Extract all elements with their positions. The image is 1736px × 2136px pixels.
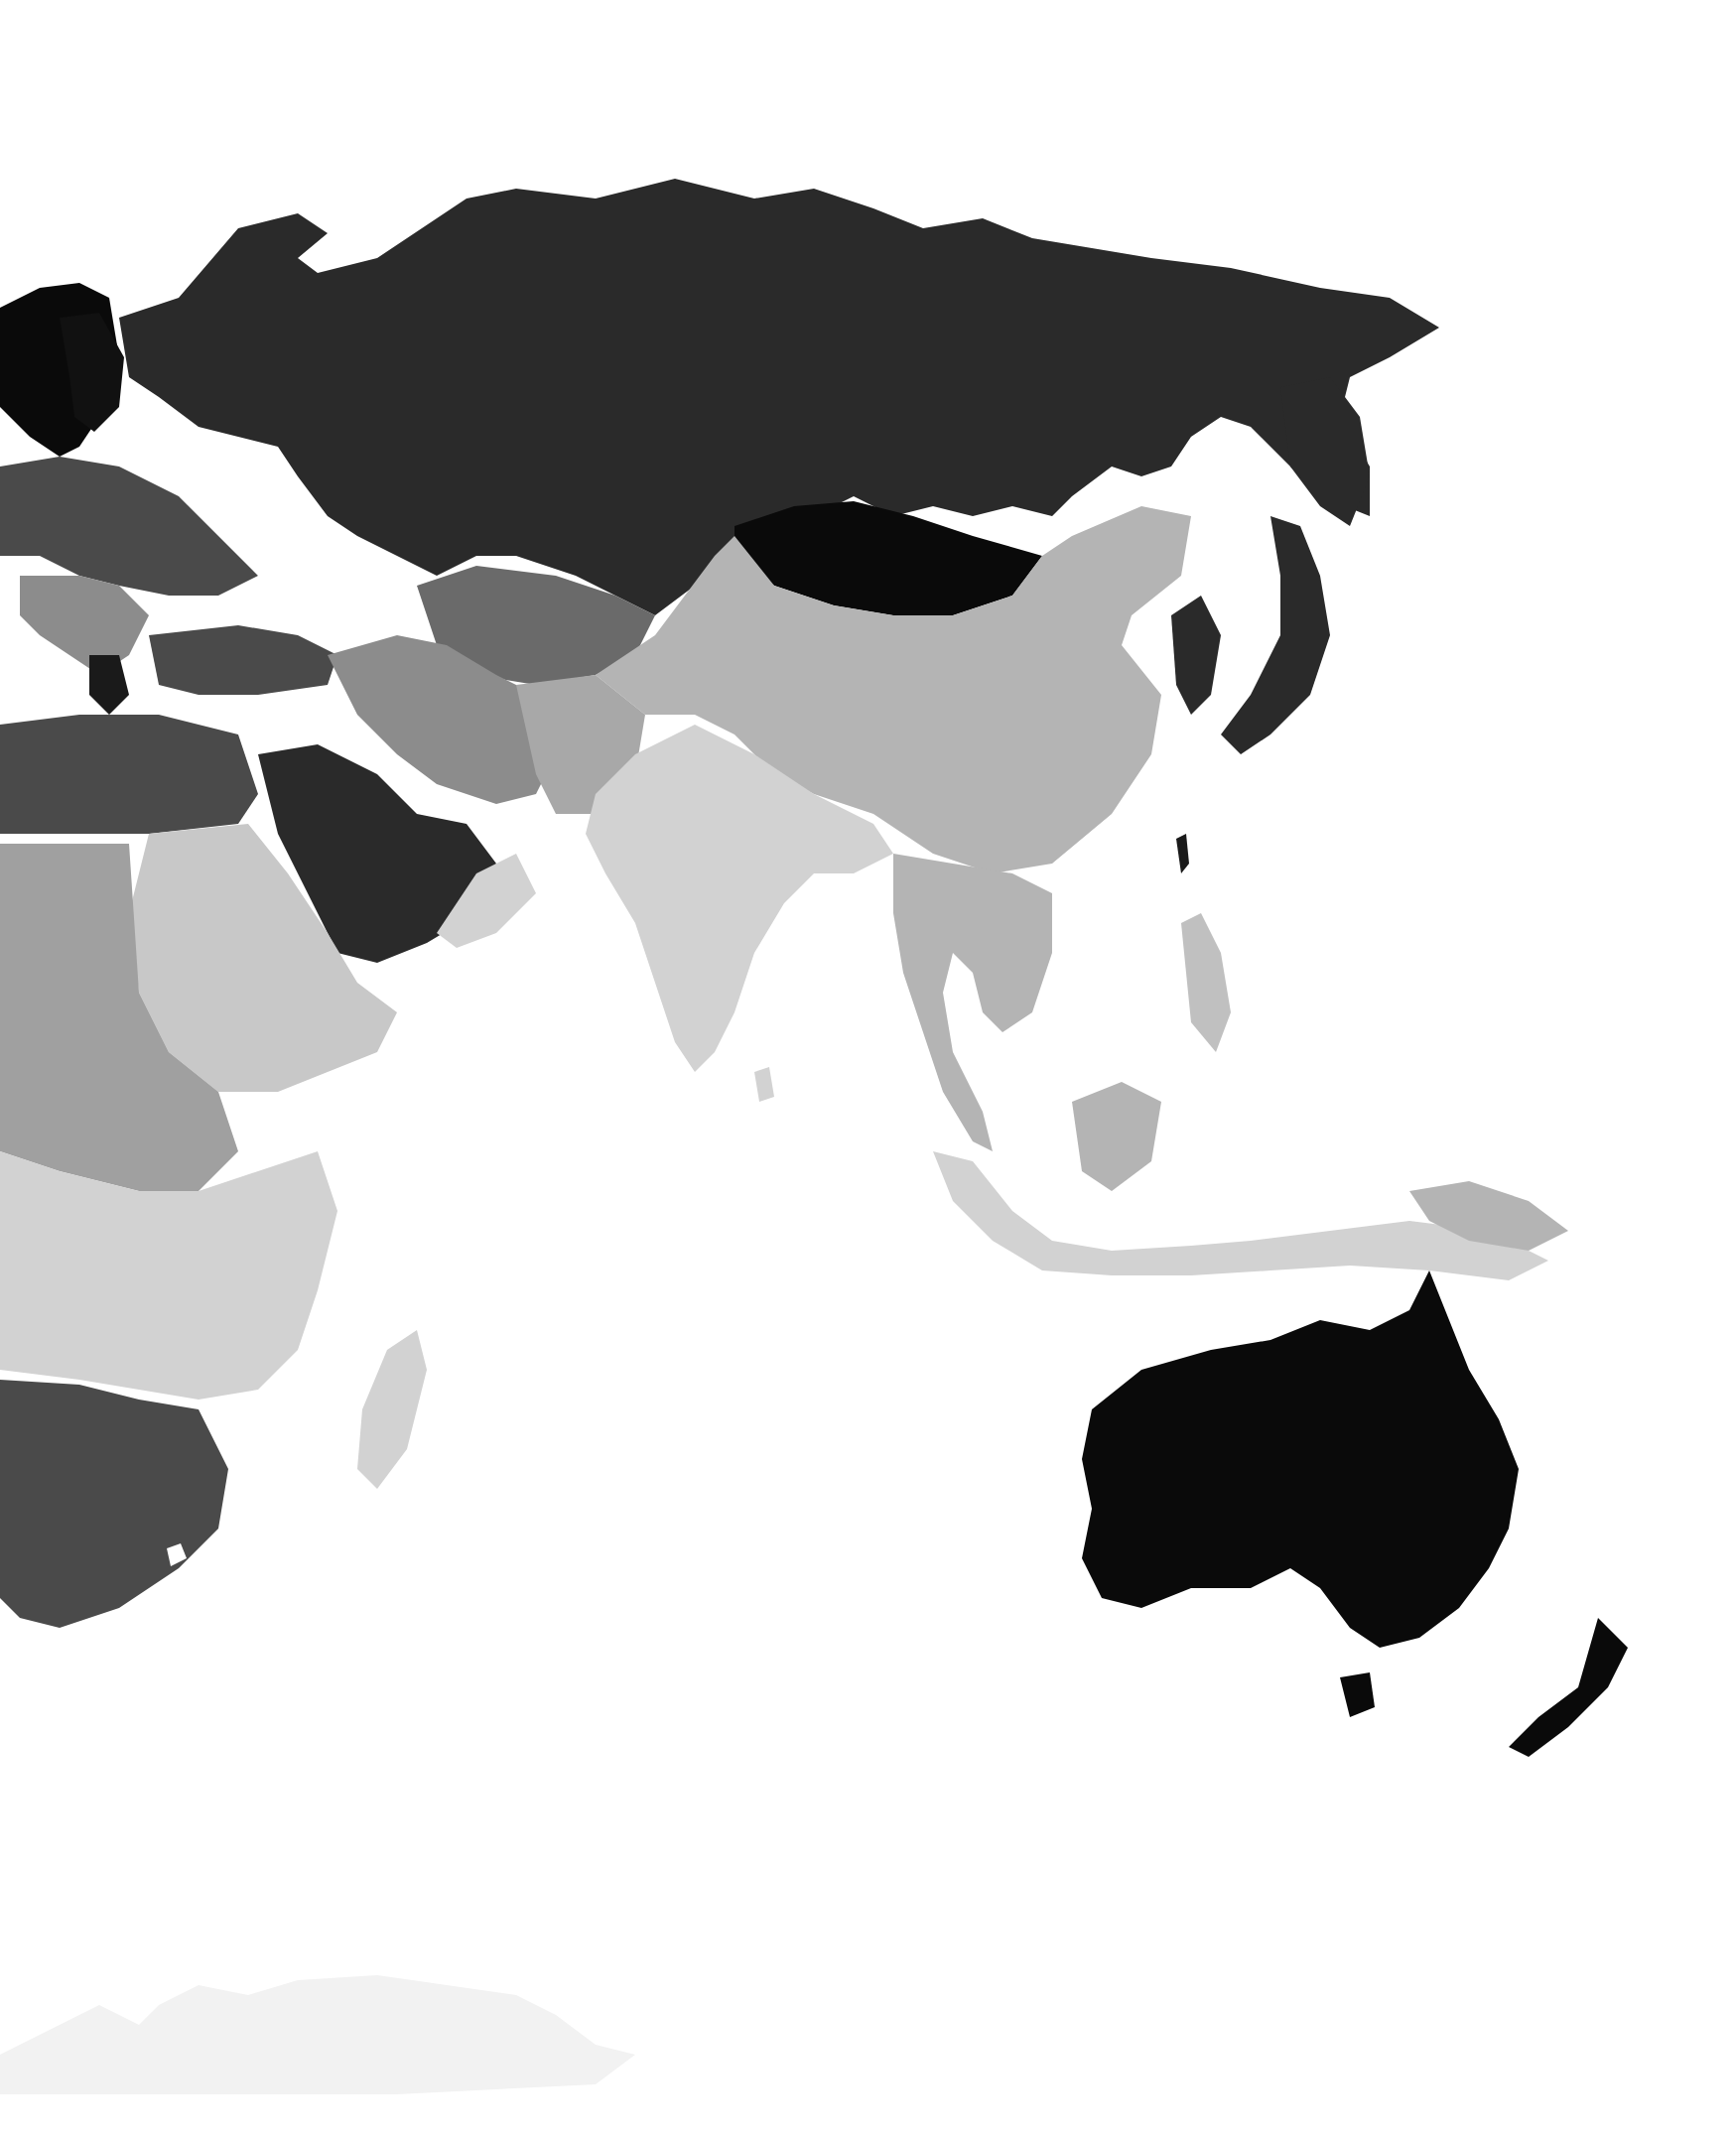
map-svg bbox=[0, 0, 1736, 2136]
region-north-africa bbox=[0, 715, 258, 834]
choropleth-map bbox=[0, 0, 1736, 2136]
